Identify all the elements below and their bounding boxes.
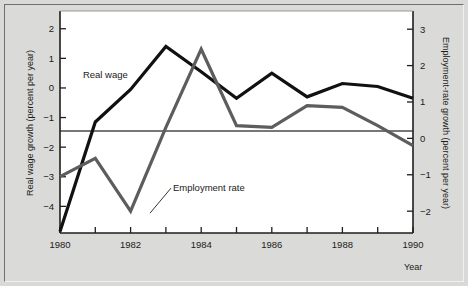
x-tick-label: 1988	[332, 239, 353, 250]
right-tick-label: 3	[420, 24, 425, 35]
left-tick-label: −1	[43, 112, 54, 123]
x-tick-label: 1984	[191, 239, 212, 250]
series-label-real-wage: Real wage	[83, 69, 128, 80]
x-tick-label: 1980	[49, 239, 70, 250]
left-tick-label: 1	[49, 53, 54, 64]
left-tick-label: −2	[43, 142, 54, 153]
right-tick-label: 1	[420, 96, 425, 107]
left-tick-label: 0	[49, 82, 54, 93]
left-tick-label: −3	[43, 171, 54, 182]
left-tick-label: −4	[43, 201, 54, 212]
x-tick-label: 1982	[120, 239, 141, 250]
left-axis-title: Real wage growth (percent per year)	[25, 23, 35, 223]
x-tick-label: 1986	[261, 239, 282, 250]
x-tick-label: 1990	[402, 239, 423, 250]
right-tick-label: −2	[420, 206, 431, 217]
right-tick-label: 0	[420, 133, 425, 144]
series-label-employment-rate: Employment rate	[173, 182, 245, 193]
plot-container: −4−3−2−1012 −2−10123 1980198219841986198…	[0, 0, 468, 286]
line-chart: −4−3−2−1012 −2−10123 1980198219841986198…	[0, 0, 468, 286]
right-tick-label: 2	[420, 60, 425, 71]
left-tick-label: 2	[49, 23, 54, 34]
right-tick-label: −1	[420, 169, 431, 180]
right-axis-title: Employment-rate growth (percent per year…	[441, 23, 451, 223]
x-axis-title: Year	[404, 262, 422, 272]
chart-figure: −4−3−2−1012 −2−10123 1980198219841986198…	[0, 0, 468, 286]
